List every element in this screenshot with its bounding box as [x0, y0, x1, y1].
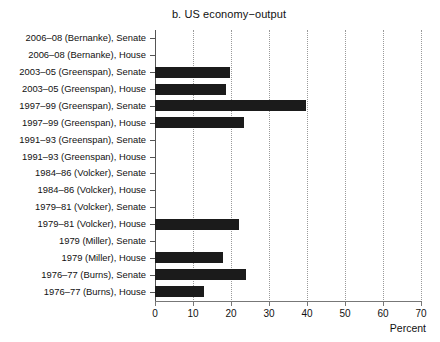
x-axis-tick: [345, 301, 346, 306]
y-axis-tick: [150, 207, 155, 208]
y-axis-tick: [150, 157, 155, 158]
y-axis-label: 1991–93 (Greenspan), House: [22, 152, 146, 162]
x-axis-tick-label: 30: [249, 308, 289, 319]
y-axis-label: 2006–08 (Bernanke), House: [28, 50, 146, 60]
y-axis-tick: [150, 55, 155, 56]
x-axis-tick: [383, 301, 384, 306]
x-axis-tick-label: 70: [401, 308, 440, 319]
bar: [155, 252, 223, 263]
y-axis-label: 1991–93 (Greenspan), Senate: [19, 135, 146, 145]
y-axis-tick: [150, 190, 155, 191]
y-axis-label: 1979 (Miller), Senate: [59, 236, 146, 246]
bar: [155, 286, 204, 297]
x-axis-tick: [193, 301, 194, 306]
y-axis-tick: [150, 38, 155, 39]
y-axis-tick: [150, 72, 155, 73]
plot-area: [155, 30, 421, 300]
y-axis-tick: [150, 258, 155, 259]
y-axis-label: 1979 (Miller), House: [62, 253, 146, 263]
x-axis-tick-label: 50: [325, 308, 365, 319]
x-axis-tick: [307, 301, 308, 306]
y-axis-label: 2003–05 (Greenspan), House: [22, 84, 146, 94]
bar: [155, 117, 244, 128]
x-axis-tick-label: 0: [135, 308, 175, 319]
x-axis-tick-label: 40: [287, 308, 327, 319]
y-axis-tick: [150, 275, 155, 276]
y-axis-label: 1997–99 (Greenspan), Senate: [19, 101, 146, 111]
y-axis-label: 1997–99 (Greenspan), House: [22, 118, 146, 128]
x-axis-tick-label: 60: [363, 308, 403, 319]
gridline-50: [345, 30, 346, 300]
y-axis-tick: [150, 140, 155, 141]
y-axis-tick: [150, 241, 155, 242]
y-axis-label: 1976–77 (Burns), House: [44, 287, 146, 297]
bar: [155, 84, 226, 95]
x-axis-tick: [421, 301, 422, 306]
y-axis-label: 1979–81 (Volcker), House: [38, 219, 146, 229]
bar: [155, 219, 239, 230]
bar: [155, 269, 246, 280]
x-axis-tick-label: 20: [211, 308, 251, 319]
chart-title: b. US economy−output: [0, 8, 440, 20]
y-axis-tick: [150, 292, 155, 293]
y-axis-tick: [150, 224, 155, 225]
y-axis-tick: [150, 173, 155, 174]
y-axis-label: 1984–86 (Volcker), House: [38, 185, 146, 195]
y-axis-label: 1984–86 (Volcker), Senate: [35, 168, 146, 178]
gridline-30: [269, 30, 270, 300]
gridline-20: [231, 30, 232, 300]
y-axis-tick: [150, 106, 155, 107]
gridline-70: [421, 30, 422, 300]
bar: [155, 67, 230, 78]
gridline-40: [307, 30, 308, 300]
y-axis-tick: [150, 123, 155, 124]
y-axis-label: 2003–05 (Greenspan), Senate: [19, 67, 146, 77]
y-axis-tick: [150, 89, 155, 90]
x-axis-line: [155, 301, 422, 302]
y-axis-label: 2006–08 (Bernanke), Senate: [26, 33, 146, 43]
x-axis-tick: [231, 301, 232, 306]
chart-figure: b. US economy−output 2006–08 (Bernanke),…: [0, 0, 440, 342]
x-axis-tick: [269, 301, 270, 306]
bar: [155, 100, 306, 111]
x-axis-tick-label: 10: [173, 308, 213, 319]
x-axis-title: Percent: [390, 322, 426, 334]
gridline-60: [383, 30, 384, 300]
x-axis-tick: [155, 301, 156, 306]
y-axis-label: 1976–77 (Burns), Senate: [41, 270, 146, 280]
y-axis-label: 1979–81 (Volcker), Senate: [35, 202, 146, 212]
